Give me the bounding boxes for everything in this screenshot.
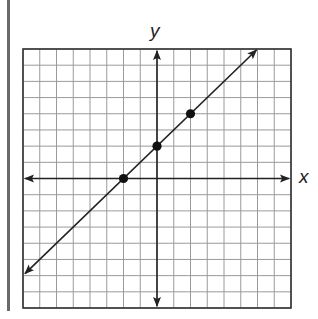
x-axis-label: x [299, 167, 309, 186]
y-axis-label: y [150, 21, 160, 40]
coordinate-grid [0, 0, 318, 319]
data-point [186, 109, 195, 118]
data-point [152, 142, 161, 151]
data-point [119, 174, 128, 183]
